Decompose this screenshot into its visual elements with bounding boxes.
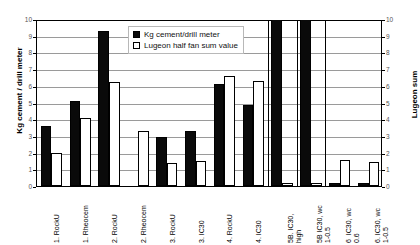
legend-item-cement: Kg cement/drill meter	[133, 29, 238, 40]
y-tick-mark-right	[382, 20, 385, 21]
bar-black-1	[70, 101, 81, 186]
gridline	[37, 70, 381, 71]
x-axis-label: 5B. IC30, high	[287, 214, 303, 243]
bar-black-9	[300, 20, 311, 186]
y-tick-mark-right	[382, 187, 385, 188]
y-tick-mark-right	[382, 170, 385, 171]
bar-white-10	[340, 160, 351, 186]
bar-black-10	[329, 183, 340, 186]
y-tick-mark-right	[382, 53, 385, 54]
y-tick-label-left: 4	[16, 117, 32, 123]
y-tick-label-right: 0	[386, 184, 402, 190]
bar-white-11	[369, 162, 380, 186]
x-axis-label: 2. Rheocem	[140, 205, 148, 243]
y-tick-label-right: 6	[386, 84, 402, 90]
y-tick-label-left: 0	[16, 184, 32, 190]
y-tick-label-right: 8	[386, 50, 402, 56]
bar-black-4	[156, 137, 167, 186]
x-axis-label: 6. IC30, wc 1-0.5	[374, 208, 390, 243]
section-divider	[268, 20, 269, 186]
y-tick-mark-right	[382, 104, 385, 105]
bar-white-7	[253, 81, 264, 186]
x-axis-label: 1. Rheocem	[82, 205, 90, 243]
legend-swatch-white-icon	[133, 42, 140, 49]
bar-white-6	[224, 76, 235, 186]
y-tick-mark-right	[382, 87, 385, 88]
y-tick-label-right: 5	[386, 101, 402, 107]
y-tick-label-left: 6	[16, 84, 32, 90]
y-tick-label-right: 7	[386, 67, 402, 73]
y-tick-mark-right	[382, 70, 385, 71]
x-axis-label: 2. RockU	[111, 214, 119, 243]
bar-white-0	[51, 153, 62, 186]
bar-white-8	[282, 183, 293, 186]
y-tick-label-right: 2	[386, 151, 402, 157]
y-tick-label-right: 4	[386, 117, 402, 123]
y-tick-label-left: 10	[16, 17, 32, 23]
y-tick-label-left: 1	[16, 167, 32, 173]
y-tick-label-left: 9	[16, 34, 32, 40]
section-divider	[297, 20, 298, 186]
legend: Kg cement/drill meter Lugeon half fan su…	[128, 26, 244, 54]
bar-chart: Kg cement / drill meter Lugeon sum 01234…	[0, 0, 420, 245]
x-axis-label: 5B IC30, wc 1-0.5	[316, 205, 332, 243]
bar-white-2	[109, 82, 120, 186]
y-tick-label-right: 10	[386, 17, 402, 23]
bar-black-7	[243, 105, 254, 186]
bar-black-11	[358, 183, 369, 186]
bar-black-2	[98, 31, 109, 186]
y-tick-label-right: 3	[386, 134, 402, 140]
y-axis-right-title: Lugeon sum	[410, 50, 419, 140]
bar-white-3	[138, 131, 149, 186]
bar-black-0	[41, 126, 52, 186]
bar-black-6	[214, 84, 225, 186]
y-tick-label-left: 8	[16, 50, 32, 56]
y-tick-mark-right	[382, 137, 385, 138]
bar-black-5	[185, 131, 196, 186]
bar-white-5	[196, 161, 207, 186]
bar-black-8	[271, 20, 282, 186]
bar-white-4	[167, 163, 178, 186]
y-tick-label-left: 5	[16, 101, 32, 107]
legend-swatch-black-icon	[133, 31, 140, 38]
legend-item-lugeon: Lugeon half fan sum value	[133, 40, 238, 51]
y-tick-mark-right	[382, 120, 385, 121]
gridline	[37, 87, 381, 88]
x-axis-label: 4. IC30	[255, 220, 263, 243]
y-tick-label-left: 7	[16, 67, 32, 73]
legend-label-lugeon: Lugeon half fan sum value	[144, 41, 238, 50]
y-tick-label-right: 9	[386, 34, 402, 40]
x-axis-label: 4. RockU	[226, 214, 234, 243]
y-tick-mark-right	[382, 154, 385, 155]
legend-label-cement: Kg cement/drill meter	[144, 30, 220, 39]
gridline	[37, 104, 381, 105]
y-tick-mark-right	[382, 37, 385, 38]
section-divider	[325, 20, 326, 186]
gridline	[37, 20, 381, 21]
x-axis-label: 3. IC30	[198, 220, 206, 243]
x-axis-label: 6 IC30, wc 0.6	[345, 208, 361, 243]
x-axis-label: 1. RockU	[53, 214, 61, 243]
y-tick-label-left: 3	[16, 134, 32, 140]
x-axis-labels: 1. RockU1. Rheocem2. RockU2. Rheocem3. R…	[36, 187, 382, 245]
bar-white-1	[80, 118, 91, 186]
y-tick-label-right: 1	[386, 167, 402, 173]
x-axis-label: 3. RockU	[169, 214, 177, 243]
y-tick-label-left: 2	[16, 151, 32, 157]
bar-white-9	[311, 183, 322, 186]
